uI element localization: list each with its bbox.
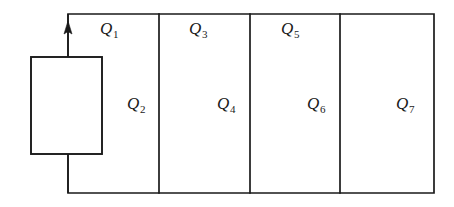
label-q1: Q1 — [100, 20, 118, 37]
loop-outer-rectangle — [68, 14, 434, 193]
source-element — [31, 57, 102, 154]
label-q6: Q6 — [307, 95, 325, 112]
label-q5-subscript: 5 — [294, 28, 300, 40]
label-q4: Q4 — [217, 95, 235, 112]
label-q6-subscript: 6 — [320, 103, 326, 115]
label-q2-symbol: Q — [127, 94, 139, 113]
label-q6-symbol: Q — [307, 94, 319, 113]
label-q4-symbol: Q — [217, 94, 229, 113]
label-q7: Q7 — [396, 95, 414, 112]
label-q2: Q2 — [127, 95, 145, 112]
label-q7-subscript: 7 — [409, 103, 415, 115]
label-q3-symbol: Q — [189, 19, 201, 38]
label-q5-symbol: Q — [281, 19, 293, 38]
diagram-canvas: Q1 Q2 Q3 Q4 Q5 Q6 Q7 — [0, 0, 454, 207]
label-q3-subscript: 3 — [202, 28, 208, 40]
label-q4-subscript: 4 — [230, 103, 236, 115]
label-q1-symbol: Q — [100, 19, 112, 38]
label-q3: Q3 — [189, 20, 207, 37]
label-q7-symbol: Q — [396, 94, 408, 113]
label-q1-subscript: 1 — [113, 28, 119, 40]
label-q2-subscript: 2 — [140, 103, 146, 115]
label-q5: Q5 — [281, 20, 299, 37]
